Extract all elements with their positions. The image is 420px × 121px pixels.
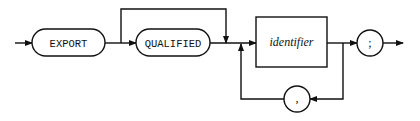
comma-label: ,: [296, 91, 299, 105]
identifier-label: identifier: [270, 35, 314, 49]
qualified-label: QUALIFIED: [145, 38, 202, 50]
syntax-diagram: EXPORT QUALIFIED identifier , ;: [0, 0, 420, 121]
semicolon-label: ;: [368, 36, 371, 50]
export-label: EXPORT: [50, 38, 88, 50]
